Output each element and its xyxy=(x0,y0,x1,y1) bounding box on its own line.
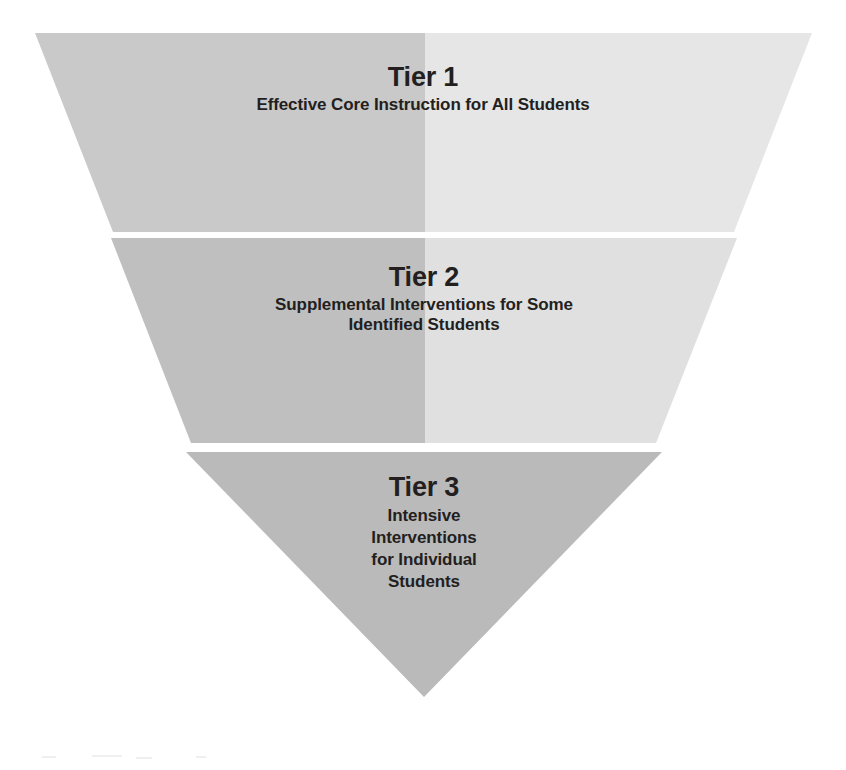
scan-artifact xyxy=(42,756,56,758)
scan-artifact xyxy=(136,757,152,759)
mtss-funnel-diagram: Tier 1 Effective Core Instruction for Al… xyxy=(0,0,846,770)
funnel-shape xyxy=(0,0,846,770)
scan-artifact xyxy=(92,755,122,757)
scan-artifact xyxy=(196,756,206,758)
